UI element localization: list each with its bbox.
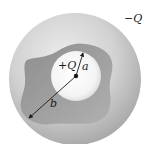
radius-b-label: b [50, 97, 57, 110]
radius-a-label: a [82, 60, 89, 73]
inner-charge-label: +Q [58, 59, 76, 72]
charged-sphere-cavity-diagram: +Q a b −Q [0, 0, 149, 144]
outer-charge-label: −Q [124, 12, 142, 25]
